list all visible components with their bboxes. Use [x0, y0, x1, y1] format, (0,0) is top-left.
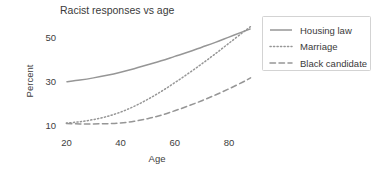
- x-axis-title: Age: [149, 153, 166, 164]
- x-tick-label: 60: [169, 137, 180, 148]
- legend-label-housing-law: Housing law: [300, 25, 352, 36]
- y-axis-title: Percent: [24, 64, 35, 97]
- x-tick-label: 20: [61, 137, 72, 148]
- legend-label-black-candidate: Black candidate: [300, 58, 367, 69]
- series-line-housing-law: [66, 29, 250, 82]
- y-tick-label: 30: [45, 76, 56, 87]
- line-chart: Racist responses vs age Percent Age 1030…: [0, 0, 375, 176]
- data-series-group: [66, 27, 250, 124]
- x-tick-label: 40: [115, 137, 126, 148]
- chart-container: Racist responses vs age Percent Age 1030…: [0, 0, 375, 176]
- series-line-black-candidate: [66, 78, 250, 124]
- chart-legend: Housing lawMarriageBlack candidate: [263, 17, 371, 71]
- y-tick-label: 50: [45, 32, 56, 43]
- chart-title: Racist responses vs age: [60, 4, 175, 16]
- y-axis-tick-labels: 103050: [45, 32, 56, 131]
- legend-label-marriage: Marriage: [300, 41, 338, 52]
- x-axis-tick-labels: 20406080: [61, 137, 234, 148]
- series-line-marriage: [66, 27, 250, 123]
- x-tick-label: 80: [224, 137, 235, 148]
- y-tick-label: 10: [45, 120, 56, 131]
